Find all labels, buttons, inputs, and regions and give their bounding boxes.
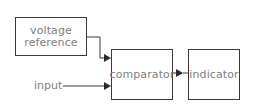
arrowhead-icon [104,82,111,90]
voltage-reference-box: voltage reference [15,17,87,56]
comparator-label: comparator [109,69,174,81]
arrowhead-icon [176,69,183,77]
comparator-box: comparator [111,49,173,100]
indicator-box: indicator [188,49,240,100]
voltage-reference-label: voltage reference [24,25,77,49]
label-line-1: voltage [24,25,77,37]
arrowhead-icon [104,54,111,62]
ref-to-comparator-line [86,37,105,58]
indicator-label: indicator [189,69,238,81]
label-line-2: reference [24,37,77,49]
input-label: input [34,79,62,92]
